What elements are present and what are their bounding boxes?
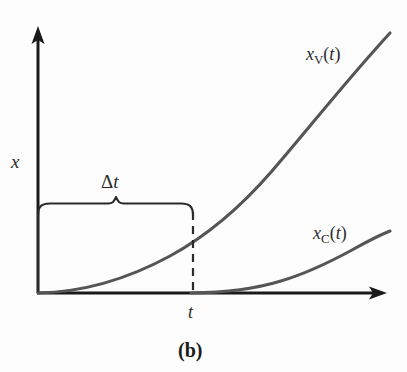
curve-label-xv-subscript: V (314, 52, 323, 67)
curve-label-xc: xC(t) (313, 224, 347, 246)
delta-t-label: Δt (101, 172, 119, 191)
y-axis-label: x (11, 152, 19, 171)
curve-label-xv-base: x (306, 44, 314, 64)
curve-label-xc-arg: (t) (330, 223, 347, 243)
curve-xv (38, 33, 390, 293)
curve-label-xv: xV(t) (306, 45, 340, 67)
curve-label-xv-arg: (t) (323, 44, 340, 64)
delta-variable: t (113, 171, 118, 192)
curve-label-xc-base: x (313, 223, 321, 243)
plot-canvas (0, 0, 407, 372)
curve-xc (191, 231, 390, 293)
x-axis-label: t (188, 303, 193, 321)
delta-symbol: Δ (101, 171, 113, 192)
delta-t-brace (38, 197, 193, 215)
figure-panel: x t Δt xV(t) xC(t) (b) (0, 0, 407, 372)
panel-caption: (b) (178, 340, 202, 360)
curve-label-xc-subscript: C (321, 231, 330, 246)
